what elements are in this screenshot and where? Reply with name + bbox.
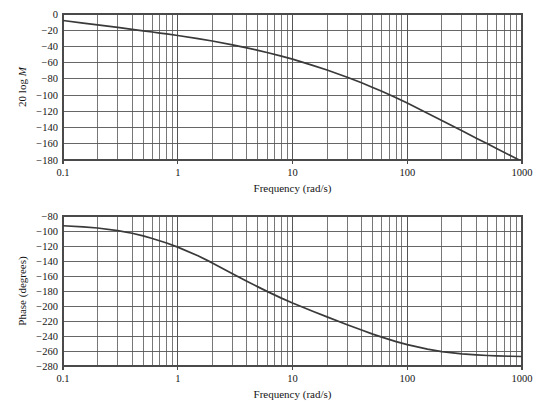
y-tick-label: −100 (36, 226, 58, 237)
y-tick-label: −40 (42, 41, 58, 52)
y-axis-title-prefix: 20 log (16, 76, 28, 107)
y-tick-label: −160 (36, 271, 58, 282)
x-axis-title: Frequency (rad/s) (254, 388, 332, 401)
x-tick-label: 1000 (512, 373, 533, 384)
y-tick-label: −240 (36, 331, 58, 342)
y-tick-label: −280 (36, 361, 58, 372)
y-tick-label: −180 (36, 155, 58, 166)
phase-panel: −80−100−120−140−160−180−200−220−240−260−… (16, 211, 533, 401)
bode-plot-figure: 0−20−40−60−80−100−120−140−160−1800.11101… (0, 0, 547, 408)
x-tick-label: 1 (175, 167, 180, 178)
x-tick-label: 1 (175, 373, 180, 384)
y-tick-label: −100 (36, 90, 58, 101)
x-tick-label: 10 (287, 167, 298, 178)
y-tick-label: −140 (36, 256, 58, 267)
x-axis-title: Frequency (rad/s) (254, 182, 332, 195)
x-tick-label: 0.1 (56, 373, 69, 384)
y-tick-label: −200 (36, 301, 58, 312)
magnitude-panel: 0−20−40−60−80−100−120−140−160−1800.11101… (16, 9, 533, 195)
y-tick-label: −120 (36, 106, 58, 117)
bode-plot-svg: 0−20−40−60−80−100−120−140−160−1800.11101… (0, 0, 547, 408)
y-tick-label: −80 (42, 73, 58, 84)
y-tick-label: −260 (36, 346, 58, 357)
x-tick-label: 100 (399, 167, 415, 178)
y-tick-label: −140 (36, 122, 58, 133)
y-tick-label: −60 (42, 57, 58, 68)
y-axis-title-symbol: M (16, 66, 28, 77)
y-tick-label: −120 (36, 241, 58, 252)
y-tick-label: 0 (53, 9, 58, 20)
y-tick-label: −180 (36, 286, 58, 297)
y-axis-title: 20 log M (16, 66, 28, 107)
x-tick-label: 10 (287, 373, 298, 384)
y-tick-label: −160 (36, 138, 58, 149)
x-tick-label: 1000 (512, 167, 533, 178)
y-tick-label: −80 (42, 211, 58, 222)
y-tick-label: −20 (42, 25, 58, 36)
x-tick-label: 0.1 (56, 167, 69, 178)
y-axis-title: Phase (degrees) (16, 256, 29, 326)
y-tick-label: −220 (36, 316, 58, 327)
x-tick-label: 100 (399, 373, 415, 384)
x-gridlines (63, 14, 522, 160)
